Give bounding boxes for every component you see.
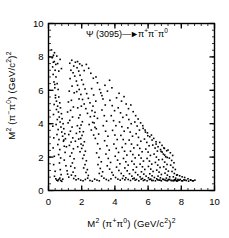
data-point	[80, 94, 82, 96]
data-point	[63, 128, 65, 130]
data-point	[114, 110, 116, 112]
data-point	[163, 147, 165, 149]
data-point	[160, 177, 162, 179]
data-point	[56, 83, 58, 85]
data-point	[86, 93, 88, 95]
data-point	[60, 107, 62, 109]
data-point	[86, 160, 88, 162]
data-point	[144, 179, 146, 181]
data-point	[183, 179, 185, 181]
data-point	[194, 179, 196, 181]
data-point	[55, 97, 57, 99]
data-point	[137, 174, 139, 176]
data-point	[83, 84, 85, 86]
data-point	[82, 180, 84, 182]
data-point	[84, 141, 86, 143]
data-point	[163, 166, 165, 168]
data-point	[82, 99, 84, 101]
data-point	[140, 157, 142, 159]
data-point	[181, 180, 183, 182]
data-point	[79, 151, 81, 153]
tick-label: 4	[112, 196, 117, 207]
data-point	[165, 168, 167, 170]
data-point	[153, 138, 155, 140]
data-point	[71, 100, 73, 102]
data-point	[138, 154, 140, 156]
data-point	[73, 158, 75, 160]
data-point	[128, 108, 130, 110]
data-point	[74, 167, 76, 169]
tick-label: 2	[79, 196, 84, 207]
data-point	[61, 131, 63, 133]
data-point	[166, 177, 168, 179]
data-point	[60, 157, 62, 159]
data-point	[69, 145, 71, 147]
data-point	[97, 164, 99, 166]
data-point	[114, 134, 116, 136]
data-point	[54, 155, 56, 157]
data-point	[118, 93, 120, 95]
data-point	[73, 65, 75, 67]
data-point	[71, 85, 73, 87]
data-point	[73, 178, 75, 180]
data-point	[146, 180, 148, 182]
data-point	[94, 178, 96, 180]
data-point	[118, 170, 120, 172]
data-point	[153, 153, 155, 155]
data-point	[58, 154, 60, 156]
data-point	[128, 139, 130, 141]
data-point	[61, 113, 63, 115]
data-point	[78, 98, 80, 100]
data-point	[152, 180, 154, 182]
data-point	[157, 146, 159, 148]
data-point	[70, 141, 72, 143]
data-point	[141, 171, 143, 173]
data-point	[132, 154, 134, 156]
data-point	[89, 180, 91, 182]
data-point	[188, 180, 190, 182]
data-point	[142, 178, 144, 180]
data-point	[155, 162, 157, 164]
data-point	[79, 63, 81, 65]
data-point	[108, 180, 110, 182]
data-point	[99, 173, 101, 175]
data-point	[78, 178, 80, 180]
data-point	[81, 65, 83, 67]
data-point	[78, 70, 80, 72]
data-point	[123, 96, 125, 98]
data-point	[75, 175, 77, 177]
data-point	[53, 54, 55, 56]
data-point	[127, 127, 129, 129]
data-point	[94, 112, 96, 114]
data-point	[139, 176, 141, 178]
data-point	[164, 161, 166, 163]
data-point	[65, 138, 67, 140]
data-point	[144, 169, 146, 171]
data-point	[57, 119, 59, 121]
data-point	[95, 76, 97, 78]
data-point	[119, 121, 121, 123]
data-point	[87, 113, 89, 115]
data-point	[150, 155, 152, 157]
data-point	[67, 122, 69, 124]
data-point	[87, 177, 89, 179]
data-point	[149, 136, 151, 138]
data-point	[126, 114, 128, 116]
data-point	[59, 162, 61, 164]
data-point	[123, 158, 125, 160]
data-point	[77, 61, 79, 63]
data-point	[118, 152, 120, 154]
data-point	[97, 118, 99, 120]
data-point	[86, 64, 88, 66]
dalitz-plot-figure: 02468100246810 M2 (π−π0) (GeV/c2)2 M2 (π…	[0, 0, 229, 238]
data-point	[81, 79, 83, 81]
data-point	[104, 140, 106, 142]
data-point	[83, 154, 85, 156]
data-point	[140, 140, 142, 142]
data-point	[94, 115, 96, 117]
data-point	[52, 66, 54, 68]
data-point	[87, 169, 89, 171]
data-point	[88, 98, 90, 100]
data-point	[181, 176, 183, 178]
data-point	[91, 88, 93, 90]
